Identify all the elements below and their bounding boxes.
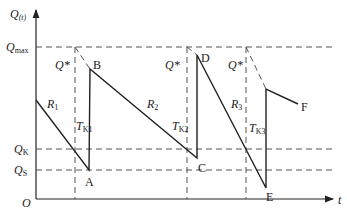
x-axis-label: t: [338, 193, 342, 207]
qs-label: QS: [14, 163, 27, 178]
qstar-projection-2: [187, 47, 197, 55]
y-axis-label: Q(t): [10, 7, 27, 22]
lead-time-label-3: TK3: [249, 121, 265, 136]
lead-time-label-2: TK2: [172, 119, 188, 134]
point-c-label: C: [198, 161, 206, 175]
qstar-label-3: Q*: [228, 58, 243, 72]
point-f-label: F: [301, 100, 308, 114]
rate-label-2: R2: [146, 97, 158, 112]
rate-label-1: R1: [46, 97, 58, 112]
qmax-label: Qmax: [6, 40, 28, 55]
qk-label: QK: [14, 142, 29, 157]
qstar-label-2: Q*: [165, 58, 180, 72]
point-b-label: B: [93, 58, 101, 72]
origin-label: O: [22, 196, 31, 210]
qstar-label-1: Q*: [55, 58, 70, 72]
point-a-label: A: [85, 175, 94, 189]
point-e-label: E: [266, 190, 273, 204]
qstar-projection-1: [75, 47, 90, 69]
qstar-projection-3: [246, 47, 266, 89]
point-d-label: D: [201, 51, 210, 65]
rate-label-3: R3: [230, 97, 242, 112]
inventory-level-diagram: Q(t) t O Qmax QK QS Q* Q* Q* A B C D E F…: [0, 0, 347, 214]
